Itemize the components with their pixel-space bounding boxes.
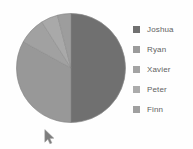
legend-item-ryan[interactable]: Ryan — [133, 39, 191, 59]
legend-item-label: Peter — [147, 85, 167, 94]
legend-item-xavier[interactable]: Xavier — [133, 59, 191, 79]
legend-swatch-icon — [133, 86, 140, 93]
mouse-pointer-icon — [44, 129, 55, 145]
legend-item-peter[interactable]: Peter — [133, 79, 191, 99]
legend-item-joshua[interactable]: Joshua — [133, 19, 191, 39]
legend-swatch-icon — [133, 106, 140, 113]
chart-legend: Joshua Ryan Xavier Peter Finn — [133, 19, 191, 119]
pie-chart-svg — [16, 13, 126, 123]
pie-slice[interactable] — [71, 14, 125, 123]
legend-swatch-icon — [133, 26, 140, 33]
legend-item-label: Joshua — [147, 25, 174, 34]
legend-item-finn[interactable]: Finn — [133, 99, 191, 119]
chart-canvas: Joshua Ryan Xavier Peter Finn — [0, 0, 193, 149]
legend-item-label: Xavier — [147, 65, 171, 74]
legend-swatch-icon — [133, 66, 140, 73]
pie-chart[interactable] — [16, 13, 126, 123]
legend-item-label: Finn — [147, 105, 163, 114]
pie-slice-group — [16, 14, 125, 123]
legend-swatch-icon — [133, 46, 140, 53]
legend-item-label: Ryan — [147, 45, 166, 54]
